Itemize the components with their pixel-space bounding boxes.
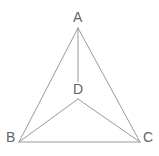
segment-ab xyxy=(19,28,78,142)
vertex-label-b: B xyxy=(6,130,15,144)
segment-ac xyxy=(78,28,140,142)
vertex-label-a: A xyxy=(73,10,82,24)
geometry-figure: A B C D xyxy=(0,0,159,156)
vertex-label-d: D xyxy=(73,82,83,96)
vertex-label-c: C xyxy=(143,130,153,144)
segment-db xyxy=(19,99,78,142)
segment-dc xyxy=(78,99,140,142)
